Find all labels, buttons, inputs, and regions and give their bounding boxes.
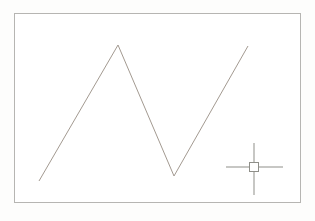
cad-drawing-figure [0,0,315,221]
zigzag-polyline[interactable] [39,45,248,181]
crosshair-cursor [226,143,283,195]
pickbox-icon [250,163,259,172]
drawing-canvas[interactable] [0,0,315,221]
